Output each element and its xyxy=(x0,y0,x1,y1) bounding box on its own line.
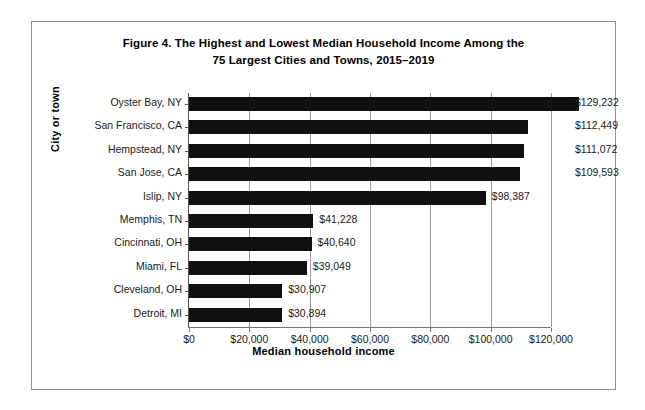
x-axis-tick xyxy=(249,328,250,332)
bar-value-label: $39,049 xyxy=(313,260,351,272)
x-axis-tick xyxy=(189,328,190,332)
x-axis-tick xyxy=(370,328,371,332)
bar-row: Detroit, MI$30,894 xyxy=(189,304,551,328)
figure-frame: Figure 4. The Highest and Lowest Median … xyxy=(31,21,616,390)
bar xyxy=(189,237,312,251)
x-axis-tick-label: $100,000 xyxy=(469,333,513,345)
category-label: San Jose, CA xyxy=(118,166,182,178)
bar xyxy=(189,308,282,322)
x-axis-tick-label: $120,000 xyxy=(529,333,573,345)
x-axis-tick-label: $20,000 xyxy=(230,333,268,345)
chart-title-line-1: Figure 4. The Highest and Lowest Median … xyxy=(32,35,615,52)
category-label: San Francisco, CA xyxy=(94,119,182,131)
bar-value-label: $129,232 xyxy=(575,96,619,108)
category-label: Cleveland, OH xyxy=(114,283,182,295)
bar xyxy=(189,191,486,205)
bar xyxy=(189,97,579,111)
category-label: Oyster Bay, NY xyxy=(110,96,182,108)
bar xyxy=(189,144,524,158)
bar-value-label: $40,640 xyxy=(318,236,356,248)
x-axis-tick-label: $0 xyxy=(183,333,195,345)
category-label: Detroit, MI xyxy=(134,307,182,319)
bar-row: Miami, FL$39,049 xyxy=(189,257,551,281)
x-axis-title: Median household income xyxy=(32,345,615,357)
x-axis-tick-label: $40,000 xyxy=(291,333,329,345)
bar xyxy=(189,214,313,228)
bar-row: Islip, NY$98,387 xyxy=(189,187,551,211)
x-axis-tick xyxy=(310,328,311,332)
gridline xyxy=(551,93,552,327)
x-axis-tick xyxy=(491,328,492,332)
bar xyxy=(189,284,282,298)
bar xyxy=(189,261,307,275)
bar-row: San Jose, CA$109,593 xyxy=(189,163,551,187)
bar-value-label: $111,072 xyxy=(575,143,617,155)
bar-row: Hempstead, NY$111,072 xyxy=(189,140,551,164)
x-axis-tick xyxy=(551,328,552,332)
bar-value-label: $30,907 xyxy=(288,283,326,295)
bar-value-label: $41,228 xyxy=(319,213,357,225)
x-axis-tick-label: $60,000 xyxy=(351,333,389,345)
x-axis-tick-label: $80,000 xyxy=(411,333,449,345)
chart-title: Figure 4. The Highest and Lowest Median … xyxy=(32,35,615,69)
x-axis-tick xyxy=(430,328,431,332)
category-label: Islip, NY xyxy=(143,190,182,202)
chart-title-line-2: 75 Largest Cities and Towns, 2015–2019 xyxy=(32,52,615,69)
bar-row: San Francisco, CA$112,449 xyxy=(189,116,551,140)
bar-value-label: $109,593 xyxy=(575,166,619,178)
bar-row: Memphis, TN$41,228 xyxy=(189,210,551,234)
bar-row: Cleveland, OH$30,907 xyxy=(189,280,551,304)
bar-row: Oyster Bay, NY$129,232 xyxy=(189,93,551,117)
bar xyxy=(189,167,520,181)
category-label: Cincinnati, OH xyxy=(114,236,182,248)
bar-row: Cincinnati, OH$40,640 xyxy=(189,233,551,257)
y-axis-title: City or town xyxy=(49,86,61,152)
category-label: Miami, FL xyxy=(136,260,182,272)
category-label: Memphis, TN xyxy=(120,213,182,225)
bar-value-label: $98,387 xyxy=(492,190,530,202)
bar-value-label: $30,894 xyxy=(288,307,326,319)
category-label: Hempstead, NY xyxy=(108,143,182,155)
plot-area: Oyster Bay, NY$129,232San Francisco, CA$… xyxy=(188,93,551,328)
bar-value-label: $112,449 xyxy=(575,119,618,131)
bar xyxy=(189,120,528,134)
